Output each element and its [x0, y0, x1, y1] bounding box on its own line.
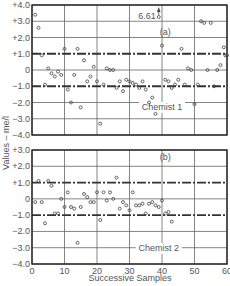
data-point — [60, 73, 63, 76]
data-point — [66, 191, 69, 194]
data-point — [157, 206, 160, 209]
data-point — [105, 199, 108, 202]
data-point — [102, 191, 105, 194]
data-point — [131, 191, 134, 194]
data-point — [209, 21, 212, 24]
y-tick-label: +3.0 — [12, 16, 30, 26]
outlier-point — [157, 16, 160, 19]
data-point — [79, 206, 82, 209]
data-point — [40, 54, 43, 57]
data-point — [92, 201, 95, 204]
data-point — [131, 82, 134, 85]
y-tick-label: 0 — [25, 65, 30, 75]
x-tick-label: 50 — [189, 266, 199, 276]
data-point — [40, 201, 43, 204]
data-point — [187, 67, 190, 70]
y-tick-label: +1.0 — [12, 49, 30, 59]
x-tick-label: 10 — [59, 266, 69, 276]
y-tick-label: +2.0 — [12, 33, 30, 43]
y-tick-label: −1.0 — [12, 81, 30, 91]
data-point — [47, 67, 50, 70]
data-point — [99, 122, 102, 125]
data-point — [66, 88, 69, 91]
data-point — [167, 80, 170, 83]
outlier-value-label: 6.61 — [138, 11, 156, 21]
data-point — [170, 220, 173, 223]
y-tick-label: −2.0 — [12, 226, 30, 236]
data-point — [219, 64, 222, 67]
chemist-label: Chemist 2 — [138, 243, 179, 253]
data-point — [203, 21, 206, 24]
data-point — [109, 191, 112, 194]
panel-chemist-2: +3.0+2.0+1.00−1.0−2.0−3.0−4.001020304050… — [12, 145, 230, 276]
y-tick-label: +1.0 — [12, 178, 30, 188]
data-point — [34, 201, 37, 204]
x-tick-label: 60 — [222, 266, 230, 276]
y-tick-label: −3.0 — [12, 114, 30, 124]
data-point — [148, 202, 151, 205]
data-point — [86, 196, 89, 199]
data-point — [164, 78, 167, 81]
data-point — [92, 65, 95, 68]
y-tick-label: −4.0 — [12, 259, 30, 269]
data-point — [151, 201, 154, 204]
data-point — [167, 210, 170, 213]
data-point — [222, 46, 225, 49]
data-point — [44, 222, 47, 225]
data-point — [53, 75, 56, 78]
data-point — [154, 112, 157, 115]
y-tick-label: +2.0 — [12, 161, 30, 171]
y-tick-label: 0 — [25, 194, 30, 204]
data-point — [83, 59, 86, 62]
data-point — [89, 201, 92, 204]
data-point — [118, 80, 121, 83]
data-point — [99, 219, 102, 222]
y-tick-label: −2.0 — [12, 98, 30, 108]
data-point — [50, 184, 53, 187]
data-point — [118, 207, 121, 210]
data-point — [122, 90, 125, 93]
data-point — [89, 75, 92, 78]
control-chart: +4.0+3.0+2.0+1.00−1.0−2.0−3.0−4.0(a)Chem… — [0, 0, 230, 286]
data-point — [76, 241, 79, 244]
data-point — [151, 96, 154, 99]
data-point — [164, 212, 167, 215]
data-point — [73, 207, 76, 210]
y-tick-label: −4.0 — [12, 130, 30, 140]
data-point — [125, 204, 128, 207]
data-point — [105, 67, 108, 70]
data-point — [141, 80, 144, 83]
data-point — [83, 192, 86, 195]
data-point — [79, 106, 82, 109]
data-point — [135, 83, 138, 86]
data-point — [154, 204, 157, 207]
x-tick-label: 0 — [29, 266, 34, 276]
data-point — [70, 206, 73, 209]
data-point — [37, 26, 40, 29]
data-point — [50, 72, 53, 75]
data-point — [86, 80, 89, 83]
panel-label: (b) — [160, 152, 171, 162]
data-point — [115, 176, 118, 179]
data-point — [125, 78, 128, 81]
y-tick-label: +4.0 — [12, 0, 30, 10]
data-point — [135, 204, 138, 207]
data-point — [76, 47, 79, 50]
panel-label: (a) — [160, 27, 171, 37]
y-axis-title: Values – me/l — [1, 116, 11, 170]
data-point — [57, 70, 60, 73]
data-point — [122, 201, 125, 204]
data-point — [141, 202, 144, 205]
y-tick-label: +3.0 — [12, 145, 30, 155]
data-point — [144, 88, 147, 91]
data-point — [34, 13, 37, 16]
panel-chemist-1: +4.0+3.0+2.0+1.00−1.0−2.0−3.0−4.0(a)Chem… — [12, 0, 228, 140]
data-point — [138, 204, 141, 207]
y-tick-label: −1.0 — [12, 210, 30, 220]
data-point — [180, 47, 183, 50]
y-tick-label: −3.0 — [12, 243, 30, 253]
x-axis-title: Successive Samples — [88, 273, 172, 283]
data-point — [73, 73, 76, 76]
data-point — [177, 78, 180, 81]
data-point — [115, 86, 118, 89]
